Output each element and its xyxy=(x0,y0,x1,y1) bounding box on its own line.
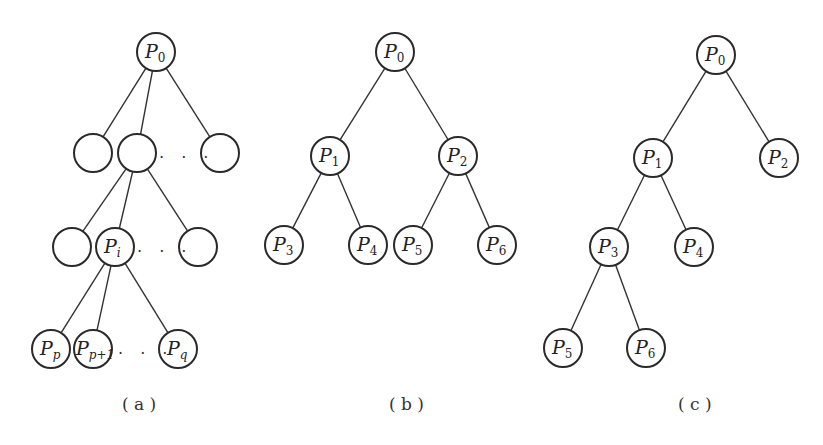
tree-node: P5 xyxy=(544,329,582,367)
tree-edge xyxy=(141,71,153,135)
ellipsis-dots: . . . xyxy=(159,143,214,162)
tree-node: P5 xyxy=(394,226,432,264)
tree-edge xyxy=(405,68,448,139)
tree-node: P1 xyxy=(311,137,349,175)
node-circle xyxy=(74,134,112,172)
edges-layer xyxy=(61,68,769,333)
tree-edge xyxy=(119,172,132,229)
tree-node xyxy=(74,134,112,172)
tree-node: P2 xyxy=(439,137,477,175)
nodes-layer: P0PiPpPp+1PqP0P1P2P3P4P5P6P0P1P2P3P4P5P6 xyxy=(32,33,798,368)
tree-node: P6 xyxy=(627,329,665,367)
ellipsis-dots: . . . xyxy=(118,339,173,358)
tree-edge xyxy=(83,169,126,232)
tree-node: P0 xyxy=(137,33,175,71)
tree-edge xyxy=(663,71,706,142)
tree-edge xyxy=(422,173,450,228)
tree-node: Pi xyxy=(96,228,134,266)
tree-edge xyxy=(97,266,111,331)
figure-caption-b: ( b ) xyxy=(389,394,424,414)
tree-node: P4 xyxy=(349,226,387,264)
figure-caption-c: ( c ) xyxy=(678,394,712,414)
tree-figure-c: P0P1P2P3P4P5P6 xyxy=(544,36,798,367)
tree-node: P4 xyxy=(675,228,713,266)
tree-edge xyxy=(147,169,187,231)
tree-diagrams-canvas: P0PiPpPp+1PqP0P1P2P3P4P5P6P0P1P2P3P4P5P6… xyxy=(0,0,823,445)
tree-node: P1 xyxy=(634,139,672,177)
tree-node xyxy=(118,134,156,172)
tree-node: P0 xyxy=(376,33,414,71)
tree-node: P6 xyxy=(478,226,516,264)
node-circle xyxy=(118,134,156,172)
tree-edge xyxy=(103,68,146,137)
tree-edge xyxy=(466,173,490,227)
tree-figure-a: P0PiPpPp+1Pq xyxy=(32,33,239,368)
tree-edge xyxy=(726,71,769,142)
tree-node: P3 xyxy=(590,228,628,266)
tree-figure-b: P0P1P2P3P4P5P6 xyxy=(265,33,516,264)
ellipsis-dots: . . . xyxy=(137,237,192,256)
tree-node: P2 xyxy=(760,139,798,177)
tree-edge xyxy=(661,175,686,229)
tree-edge xyxy=(617,175,644,230)
tree-node: Pp xyxy=(32,330,70,368)
figure-caption-a: ( a ) xyxy=(122,394,156,414)
tree-edge xyxy=(571,264,601,330)
tree-edge xyxy=(166,68,210,137)
node-circle xyxy=(53,228,91,266)
tree-edge xyxy=(616,265,640,330)
tree-edge xyxy=(125,263,168,333)
tree-edge xyxy=(293,173,322,228)
tree-edge xyxy=(340,68,385,140)
tree-edge xyxy=(337,173,360,227)
tree-node: P3 xyxy=(265,226,303,264)
tree-node: Pp+1 xyxy=(74,330,114,368)
annotations-layer: . . .. . .. . .( a )( b )( c ) xyxy=(118,143,712,414)
tree-node: P0 xyxy=(697,36,735,74)
tree-node xyxy=(53,228,91,266)
